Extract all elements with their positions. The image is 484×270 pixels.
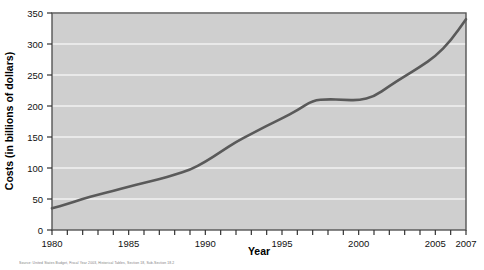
source-note: Source: United States Budget, Fiscal Yea… [19, 261, 479, 265]
x-axis-title: Year [248, 245, 270, 257]
x-tick-label-1985: 1985 [118, 238, 139, 249]
chart-figure: 050100150200250300350 198019851990199520… [0, 0, 484, 270]
x-tick-label-1990: 1990 [195, 238, 216, 249]
x-tick-label-2007: 2007 [455, 238, 476, 249]
y-tick-label-150: 150 [27, 132, 43, 143]
y-tick-label-350: 350 [27, 8, 43, 19]
x-tick-label-2005: 2005 [425, 238, 446, 249]
y-tick-label-250: 250 [27, 70, 43, 81]
x-tick-label-1995: 1995 [271, 238, 292, 249]
y-tick-label-100: 100 [27, 163, 43, 174]
plot-area-background [52, 13, 466, 230]
x-tick-label-1980: 1980 [41, 238, 62, 249]
x-tick-label-2000: 2000 [348, 238, 369, 249]
y-tick-label-200: 200 [27, 101, 43, 112]
y-tick-label-300: 300 [27, 39, 43, 50]
y-tick-label-50: 50 [32, 194, 43, 205]
line-chart: 050100150200250300350 198019851990199520… [0, 0, 484, 258]
y-axis: 050100150200250300350 [27, 8, 52, 236]
y-tick-label-0: 0 [38, 225, 43, 236]
y-axis-title: Costs (in billions of dollars) [3, 52, 15, 190]
